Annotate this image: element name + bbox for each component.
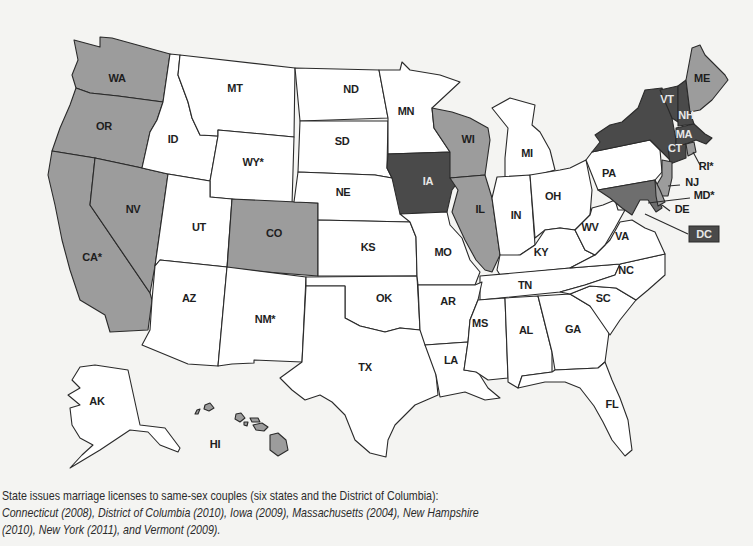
state-label-al: AL <box>519 324 534 336</box>
state-label-ne: NE <box>336 186 351 198</box>
state-label-ia: IA <box>423 175 434 187</box>
state-label-wa: WA <box>108 72 125 84</box>
state-label-tn: TN <box>518 279 532 291</box>
state-label-pa: PA <box>602 167 616 179</box>
state-label-ks: KS <box>361 241 376 253</box>
state-label-ut: UT <box>192 221 207 233</box>
callout-label-de: DE <box>675 203 690 215</box>
state-label-ar: AR <box>440 295 456 307</box>
us-map: WAORCA*NVIDMTWY*UTCOAZNM*NDSDNEKSOKTXMNI… <box>0 0 753 470</box>
state-label-ct: CT <box>668 142 683 154</box>
state-label-oh: OH <box>545 190 561 202</box>
state-label-va: VA <box>615 230 629 242</box>
state-hi <box>270 433 288 456</box>
state-label-sd: SD <box>335 135 350 147</box>
state-sd <box>298 121 392 178</box>
callout-label-ri: RI* <box>699 160 714 172</box>
hawaii-island <box>250 418 260 422</box>
state-label-nv: NV <box>126 203 142 215</box>
state-label-co: CO <box>266 227 283 239</box>
state-label-la: LA <box>444 354 458 366</box>
state-label-fl: FL <box>606 398 619 410</box>
caption-line-1: State issues marriage licenses to same-s… <box>2 488 742 505</box>
states-layer <box>48 37 728 468</box>
state-label-ca: CA* <box>82 251 102 263</box>
state-label-hi: HI <box>210 438 221 450</box>
map-caption: State issues marriage licenses to same-s… <box>2 488 742 539</box>
state-label-ak: AK <box>89 395 105 407</box>
state-label-ga: GA <box>565 323 581 335</box>
state-label-ma: MA <box>676 128 693 140</box>
hawaii-island <box>244 422 248 426</box>
state-label-vt: VT <box>660 93 674 105</box>
caption-line-3: (2010), New York (2011), and Vermont (20… <box>2 522 742 539</box>
callout-label-md: MD* <box>694 189 716 201</box>
hawaii-island <box>235 413 245 422</box>
state-label-wv: WV <box>581 221 599 233</box>
state-label-mn: MN <box>398 105 415 117</box>
leader-line-de <box>662 205 670 211</box>
state-label-sc: SC <box>596 292 611 304</box>
state-label-mo: MO <box>434 246 452 258</box>
state-label-nm: NM* <box>255 313 277 325</box>
callout-label-nj: NJ <box>685 176 699 188</box>
callout-label-dc: DC <box>696 228 712 240</box>
state-label-nh: NH <box>678 109 694 121</box>
state-label-ok: OK <box>376 292 392 304</box>
state-label-ky: KY <box>534 246 550 258</box>
state-label-mi: MI <box>521 147 533 159</box>
hawaii-island <box>195 409 200 414</box>
state-az <box>142 260 227 366</box>
state-label-wi: WI <box>462 133 475 145</box>
state-label-me: ME <box>694 72 710 84</box>
state-label-id: ID <box>168 133 179 145</box>
state-mi <box>492 98 555 178</box>
state-label-or: OR <box>96 120 112 132</box>
state-label-az: AZ <box>182 292 197 304</box>
state-label-ms: MS <box>472 317 488 329</box>
state-label-in: IN <box>511 209 522 221</box>
hawaii-island <box>204 403 214 411</box>
caption-line-2: Connecticut (2008), District of Columbia… <box>2 505 742 522</box>
state-label-mt: MT <box>227 82 243 94</box>
state-label-nd: ND <box>343 83 359 95</box>
state-label-il: IL <box>475 203 485 215</box>
state-nd <box>295 68 388 121</box>
state-mt <box>178 55 295 137</box>
state-label-tx: TX <box>358 361 372 373</box>
state-label-nc: NC <box>618 264 634 276</box>
hawaii-island <box>253 423 268 431</box>
state-ak <box>68 365 180 468</box>
state-label-wy: WY* <box>242 156 264 168</box>
hawaii-islands <box>195 403 268 431</box>
